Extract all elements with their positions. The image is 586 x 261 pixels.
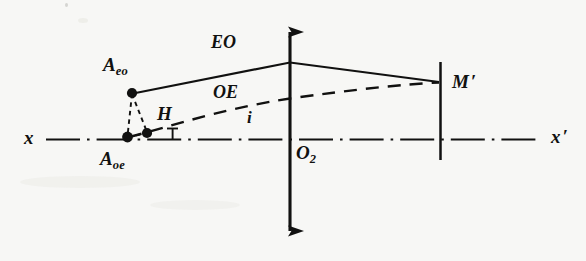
dot-a-eo xyxy=(127,88,137,98)
subscript-eo: eo xyxy=(116,64,128,78)
angle-marker-i xyxy=(167,129,178,140)
point-label-a-eo: Aeo xyxy=(103,55,128,74)
diagram-canvas xyxy=(0,0,586,261)
prime-glyph: ′ xyxy=(561,126,568,147)
ray-path-eo-solid xyxy=(133,63,439,94)
dot-h xyxy=(142,128,152,138)
optical-diagram-figure: x x′ Aeo H Aoe O2 M′ EO OE i xyxy=(0,0,586,261)
angle-label-i: i xyxy=(247,109,252,126)
ray-label-oe: OE xyxy=(213,83,238,101)
axis-label-x-right: x′ xyxy=(551,127,568,146)
point-label-o2: O2 xyxy=(296,143,316,162)
subscript-oe: oe xyxy=(113,158,125,172)
subscript-2: 2 xyxy=(310,152,317,166)
ray-label-eo: EO xyxy=(211,33,236,51)
point-label-h: H xyxy=(157,104,172,123)
point-label-m-prime: M′ xyxy=(452,72,476,91)
point-label-a-oe: Aoe xyxy=(100,149,125,168)
axis-label-x-left: x xyxy=(24,128,34,147)
prime-glyph: ′ xyxy=(469,71,476,92)
dot-a-oe xyxy=(122,132,133,143)
